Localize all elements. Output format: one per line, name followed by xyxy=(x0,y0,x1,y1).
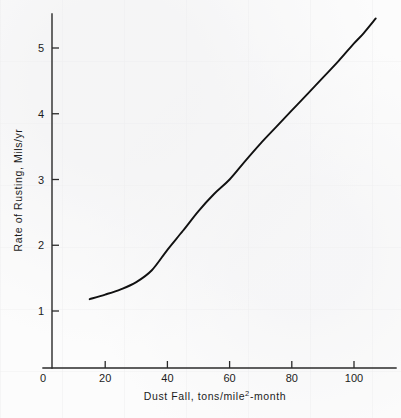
x-tick-label-60: 60 xyxy=(223,372,235,384)
y-tick-label-5: 5 xyxy=(38,42,44,54)
rate-of-rusting-line-chart: 12345 020406080100 Dust Fall, tons/mile2… xyxy=(0,0,401,418)
rusting-rate-curve xyxy=(90,18,376,299)
y-axis-tick-group: 12345 xyxy=(38,42,59,317)
y-tick-label-3: 3 xyxy=(38,174,44,186)
x-tick-label-80: 80 xyxy=(286,372,298,384)
x-axis-title: Dust Fall, tons/mile2-month xyxy=(144,389,286,402)
x-tick-label-20: 20 xyxy=(99,372,111,384)
y-tick-label-2: 2 xyxy=(38,239,44,251)
x-tick-label-100: 100 xyxy=(345,372,363,384)
x-axis-title-tail: -month xyxy=(250,390,286,402)
x-axis-title-base: Dust Fall, tons/mile xyxy=(144,390,245,402)
x-tick-label-0: 0 xyxy=(40,372,46,384)
y-axis-title: Rate of Rusting, Mils/yr xyxy=(12,129,24,252)
y-tick-label-1: 1 xyxy=(38,305,44,317)
x-tick-label-40: 40 xyxy=(161,372,173,384)
chart-canvas: 12345 020406080100 Dust Fall, tons/mile2… xyxy=(0,0,401,418)
y-tick-label-4: 4 xyxy=(38,108,44,120)
x-axis-tick-group: 020406080100 xyxy=(40,361,363,384)
